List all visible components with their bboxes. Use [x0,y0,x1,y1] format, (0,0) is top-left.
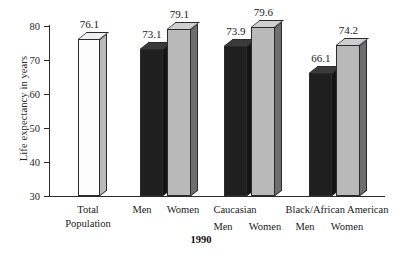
bar-caucasian-women: 79.6 [251,27,275,196]
bar-front-face [309,73,332,196]
bar-value-label: 66.1 [311,52,330,64]
bar-side-face [360,40,367,196]
y-tick-label-70: 70 [30,55,41,66]
bar-value-label: 76.1 [80,18,99,30]
x-axis-title: 1990 [0,234,402,245]
bar-front-face [167,29,191,196]
y-tick-label-30: 30 [30,191,41,202]
category-label-caucasian: Caucasian [199,203,271,217]
y-tick-label-50: 50 [30,123,41,134]
y-axis-line [49,25,50,197]
y-tick-label-80: 80 [30,21,41,32]
plot-area: 30 40 50 60 70 80 76.1 [49,25,385,197]
bar-black-african-american-women: 74.2 [336,45,360,196]
bar-black-african-american-men: 66.1 [309,73,332,196]
life-expectancy-bar-chart: Life expectancy in years 30 40 50 60 70 … [0,0,402,257]
category-label-black-women: Women [322,220,372,234]
category-label-black-african-american: Black/African American [272,203,402,217]
bar-front-face [336,45,360,196]
bar-value-label: 74.2 [339,24,358,36]
bar-total-population: 76.1 [78,39,100,196]
category-label-black-men: Men [285,220,325,234]
bar-all-women: 79.1 [167,29,191,196]
y-axis-title: Life expectancy in years [18,34,29,184]
bar-front-face [78,39,100,196]
bar-value-label: 79.6 [254,6,273,18]
bar-front-face [224,46,247,196]
bar-all-men: 73.1 [140,49,163,196]
category-label-caucasian-women: Women [240,220,290,234]
category-label-caucasian-men: Men [203,220,243,234]
bar-front-face [140,49,163,196]
y-tick-label-60: 60 [30,89,41,100]
bar-value-label: 73.1 [142,28,161,40]
bar-value-label: 73.9 [226,25,245,37]
category-label-total-line2: Population [48,217,128,231]
category-label-total-line1: Total [48,203,128,217]
bar-front-face [251,27,275,196]
bar-caucasian-men: 73.9 [224,46,247,196]
bar-value-label: 79.1 [170,8,189,20]
bar-side-face [100,34,107,196]
y-tick-label-40: 40 [30,157,41,168]
category-label-all-men: Men [122,203,162,217]
bar-side-face [191,24,198,196]
bar-side-face [275,22,282,196]
